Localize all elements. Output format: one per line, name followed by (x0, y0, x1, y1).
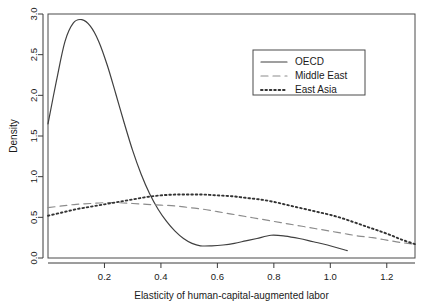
y-tick-label-0: 0.0 (28, 251, 39, 264)
x-tick-label-0: 0.2 (98, 271, 111, 282)
density-plot: 0.20.40.60.81.01.2Elasticity of human-ca… (0, 0, 428, 305)
y-tick-label-2: 1.0 (28, 170, 39, 183)
x-axis-title: Elasticity of human-capital-augmented la… (134, 290, 329, 301)
y-tick-label-5: 2.5 (28, 48, 39, 61)
y-tick-label-6: 3.0 (28, 7, 39, 20)
legend-label-2: East Asia (295, 84, 337, 95)
legend-label-1: Middle East (295, 70, 347, 81)
y-tick-label-3: 1.5 (28, 129, 39, 142)
x-tick-label-4: 1.0 (324, 271, 337, 282)
x-tick-label-2: 0.6 (211, 271, 224, 282)
y-axis-title: Density (8, 119, 19, 152)
legend-label-0: OECD (295, 56, 324, 67)
x-tick-label-3: 0.8 (267, 271, 280, 282)
chart-canvas: 0.20.40.60.81.01.2Elasticity of human-ca… (0, 0, 428, 305)
x-tick-label-1: 0.4 (154, 271, 167, 282)
y-tick-label-4: 2.0 (28, 89, 39, 102)
y-tick-label-1: 0.5 (28, 211, 39, 224)
x-tick-label-5: 1.2 (380, 271, 393, 282)
